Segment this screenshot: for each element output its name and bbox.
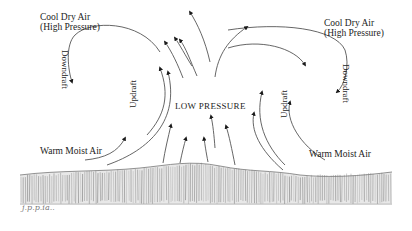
label-warm-moist-right: Warm Moist Air	[309, 150, 371, 160]
label-downdraft-right: Downdraft	[341, 64, 351, 103]
label-top-right-air: Cool Dry Air (High Pressure)	[324, 19, 384, 39]
label-low-pressure: LOW PRESSURE	[175, 102, 246, 111]
ground-terrain	[20, 163, 392, 205]
label-warm-moist-left: Warm Moist Air	[40, 147, 102, 157]
label-text: (High Pressure)	[40, 23, 100, 33]
central-rising-arrows	[163, 116, 235, 165]
label-downdraft-left: Downdraft	[60, 50, 70, 89]
artist-signature: j.p.p.ia..	[22, 203, 55, 212]
top-fan-arrows	[165, 12, 247, 78]
label-text: (High Pressure)	[324, 29, 384, 39]
right-inner-curve-arrow	[228, 44, 305, 65]
left-downdraft-arrow	[68, 25, 160, 82]
label-top-left-air: Cool Dry Air (High Pressure)	[40, 13, 100, 33]
label-updraft-left: Updraft	[128, 80, 138, 108]
label-updraft-right: Updraft	[279, 90, 289, 118]
